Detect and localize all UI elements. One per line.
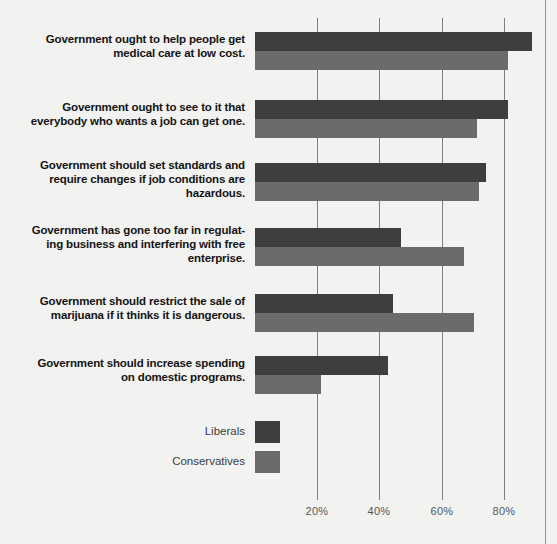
grouped-bar-chart: 20% 40% 60% 80% Government ought to help… [0, 0, 557, 544]
bar-liberals [255, 32, 532, 51]
bar-group-label: Government has gone too far in regulat- … [10, 223, 245, 265]
bar-group-label-line: Government ought to help people get [10, 32, 245, 46]
bar-liberals [255, 163, 486, 182]
x-tick-label-60: 60% [431, 505, 454, 517]
legend-item-conservatives: Conservatives [0, 450, 300, 474]
bar-conservatives [255, 119, 477, 138]
page-border-right [545, 0, 546, 544]
bar-group-label-line: Government should increase spending [10, 356, 245, 370]
bar-group-label: Government should restrict the sale of m… [10, 294, 245, 322]
bar-group-label: Government ought to help people get medi… [10, 32, 245, 60]
bar-liberals [255, 100, 508, 119]
bar-group-label: Government ought to see to it that every… [10, 100, 245, 128]
legend-swatch-liberals [255, 421, 280, 443]
bar-group-label-line: medical care at low cost. [10, 46, 245, 60]
x-tick-label-80: 80% [493, 505, 516, 517]
bar-group-label-line: Government ought to see to it that [10, 100, 245, 114]
bar-group-label-line: require changes if job conditions are [10, 172, 245, 186]
bar-conservatives [255, 375, 321, 394]
bar-group-label-line: everybody who wants a job can get one. [10, 114, 245, 128]
bar-conservatives [255, 247, 464, 266]
legend-label-conservatives: Conservatives [60, 450, 245, 472]
bar-conservatives [255, 51, 508, 70]
legend-swatch-conservatives [255, 451, 280, 473]
bar-group-label: Government should increase spending on d… [10, 356, 245, 384]
bar-liberals [255, 356, 388, 375]
x-tick-label-40: 40% [368, 505, 391, 517]
bar-liberals [255, 294, 393, 313]
bar-group-label-line: hazardous. [10, 186, 245, 200]
bar-group-label-line: on domestic programs. [10, 370, 245, 384]
legend-item-liberals: Liberals [0, 420, 300, 444]
bar-conservatives [255, 313, 474, 332]
legend-label-liberals: Liberals [60, 420, 245, 442]
bar-group-label-line: Government should set standards and [10, 158, 245, 172]
plot-area: 20% 40% 60% 80% Government ought to help… [0, 0, 545, 544]
bar-group-label-line: ing business and interfering with free [10, 237, 245, 251]
bar-conservatives [255, 182, 479, 201]
bar-group-label-line: Government has gone too far in regulat- [10, 223, 245, 237]
bar-group-label-line: Government should restrict the sale of [10, 294, 245, 308]
bar-group-label-line: enterprise. [10, 251, 245, 265]
bar-liberals [255, 228, 401, 247]
gridline-80 [504, 18, 505, 500]
bar-group-label: Government should set standards and requ… [10, 158, 245, 200]
bar-group-label-line: marijuana if it thinks it is dangerous. [10, 308, 245, 322]
x-tick-label-20: 20% [306, 505, 329, 517]
